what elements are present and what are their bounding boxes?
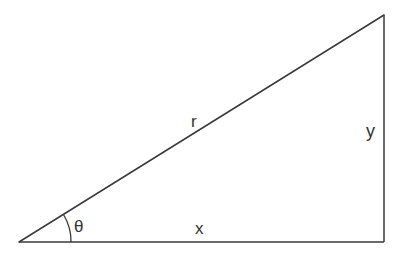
hypotenuse-line (19, 15, 384, 242)
angle-label: θ (74, 217, 83, 236)
angle-arc (64, 215, 72, 243)
hypotenuse-label: r (191, 112, 197, 131)
opposite-label: y (366, 121, 375, 141)
right-triangle-diagram: θ r y x (0, 0, 411, 263)
adjacent-label: x (195, 219, 204, 238)
